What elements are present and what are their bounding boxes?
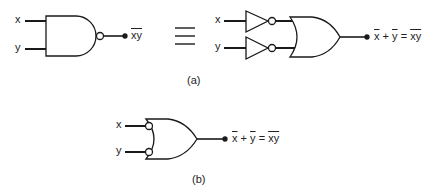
nand-inversion-bubble [97,33,104,40]
or-b-output-dot [223,137,227,141]
or-b-input-y-label: y [116,145,122,156]
inverter-x [224,11,297,32]
or-b-bubble-y [146,149,153,156]
or-b-bubble-x [146,123,153,130]
inverter-x-input-label: x [215,14,221,25]
inverter-y-input-label: y [215,41,221,52]
or-b-input-x-label: x [116,119,122,130]
nand-gate [25,16,127,56]
expr-b-not-x: x [232,132,238,144]
or-gate-a [290,17,369,57]
or-a-output-expression: x + y = xy [374,30,421,43]
equivalence-symbol [175,28,195,44]
inverter-y-bubble [269,45,276,52]
expr-plus: + [383,30,389,42]
caption-a: (a) [187,74,200,86]
nand-body [46,16,96,56]
nand-output-dot [123,34,127,38]
expr-b-not-y: y [250,132,256,144]
expr-not-x: x [374,30,380,42]
nand-input-x-label: x [15,14,21,25]
inverter-y [224,37,297,59]
bubbled-or-gate [125,119,227,159]
inverter-x-bubble [269,18,276,25]
caption-b: (b) [192,173,205,185]
or-a-output-dot [365,35,369,39]
expr-equals: = [401,30,407,42]
nand-output-label: xy [131,29,142,42]
or-b-output-expression: x + y = xy [232,132,279,145]
expr-not-y: y [392,30,398,42]
nand-input-y-label: y [15,42,21,53]
expr-not-xy: xy [410,30,421,42]
expr-b-plus: + [241,132,247,144]
expr-b-not-xy: xy [268,132,279,144]
expr-b-equals: = [259,132,265,144]
